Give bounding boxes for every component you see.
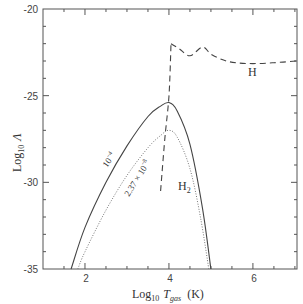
cooling-function-chart: -20 -25 -30 -35 2 4 6 Log10Tgas(K) Log10… bbox=[0, 0, 303, 304]
curve-h bbox=[171, 44, 297, 64]
y-tick-label: -35 bbox=[24, 264, 39, 275]
axis-ticks bbox=[43, 9, 297, 269]
label-density-2.37e-8: 2.37 × 10−8 bbox=[121, 158, 152, 198]
label-h2: H2 bbox=[178, 179, 191, 195]
y-tick-label: -20 bbox=[24, 4, 39, 15]
y-axis-title: Log10Λ bbox=[10, 133, 26, 172]
plot-frame bbox=[43, 9, 297, 269]
x-tick-label: 4 bbox=[167, 273, 173, 284]
y-tick-label: -25 bbox=[24, 91, 39, 102]
x-tick-label: 6 bbox=[251, 273, 257, 284]
y-tick-label: -30 bbox=[24, 177, 39, 188]
x-axis-title: Log10Tgas(K) bbox=[132, 287, 204, 303]
label-h: H bbox=[248, 65, 257, 79]
x-tick-label: 2 bbox=[83, 273, 89, 284]
curve-h2 bbox=[161, 44, 171, 191]
